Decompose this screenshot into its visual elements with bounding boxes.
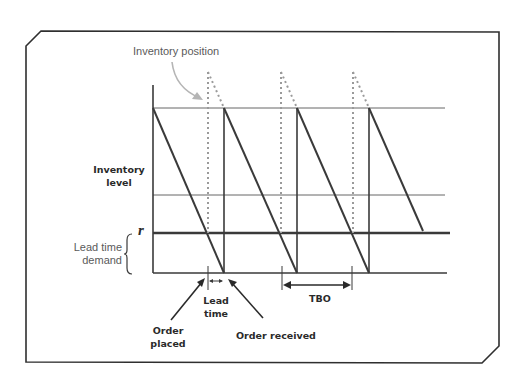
inventory-position-label: Inventory position [133,45,219,57]
reorder-point-label: r [138,222,144,239]
lead-time-demand-line2: demand [70,254,122,267]
tbo-label: TBO [309,292,331,305]
inventory-level-line2: level [92,176,146,189]
order-placed-line1: Order [148,324,188,337]
inventory-chart [0,0,524,379]
lead-time-line1: Lead [200,294,232,307]
lead-time-demand-label: Lead time demand [70,241,122,267]
lead-time-line2: time [200,307,232,320]
order-received-label: Order received [236,329,316,342]
order-placed-line2: placed [148,337,188,350]
inventory-level-label: Inventory level [92,163,146,189]
order-placed-label: Order placed [148,324,188,350]
inventory-level-line1: Inventory [92,163,146,176]
lead-time-demand-line1: Lead time [70,241,122,254]
lead-time-label: Lead time [200,294,232,320]
